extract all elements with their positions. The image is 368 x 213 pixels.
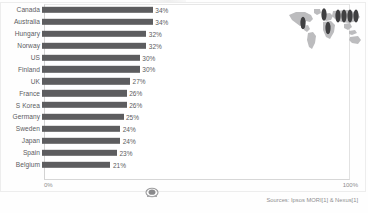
bar-track: 34% [42,16,368,28]
bar-category-label: S Korea [0,102,42,109]
bar-row: Hungary32% [0,28,368,40]
bar-value-label: 25% [124,113,140,120]
bar-track: 25% [42,111,368,123]
bar-value-label: 26% [127,102,143,109]
bar-row: Belgium21% [0,159,368,171]
bar-value-label: 34% [153,18,169,25]
bar-category-label: US [0,54,42,61]
bar-category-label: Japan [0,137,42,144]
bar-track: 23% [42,147,368,159]
x-axis: 0% 100% [0,182,368,192]
bar-track: 24% [42,123,368,135]
bar-row: Germany25% [0,111,368,123]
bar-row: Norway32% [0,40,368,52]
bar [42,78,130,84]
bar-row: Spain23% [0,147,368,159]
bar-row: Canada34% [0,4,368,16]
bar [42,161,110,167]
bar-track: 26% [42,87,368,99]
bar [42,66,140,72]
bar [42,42,146,48]
bar [42,149,117,155]
bar-value-label: 34% [153,6,169,13]
bar-row: S Korea26% [0,99,368,111]
bar-value-label: 23% [117,149,133,156]
bar-category-label: UK [0,78,42,85]
bar-row: Finland30% [0,63,368,75]
bar-row: Australia34% [0,16,368,28]
bar-value-label: 32% [146,30,162,37]
bar-track: 32% [42,28,368,40]
bar-value-label: 24% [120,137,136,144]
bar [42,19,153,25]
bar-category-label: Sweden [0,125,42,132]
bar-category-label: Australia [0,18,42,25]
bar [42,7,153,13]
bar-value-label: 32% [146,42,162,49]
bar-track: 21% [42,159,368,171]
bar-category-label: Germany [0,113,42,120]
bar-value-label: 30% [140,66,156,73]
bar-track: 30% [42,52,368,64]
bar-value-label: 30% [140,54,156,61]
axis-min-label: 0% [44,182,53,188]
chart-screenshot: Canada34%Australia34%Hungary32%Norway32%… [0,0,368,213]
stamp-icon [142,186,162,199]
bar-row: Sweden24% [0,123,368,135]
bar-value-label: 24% [120,125,136,132]
bar-row: UK27% [0,75,368,87]
bar-track: 24% [42,135,368,147]
bar-value-label: 21% [110,161,126,168]
bar-track: 30% [42,63,368,75]
bar [42,102,127,108]
axis-max-label: 100% [343,182,358,188]
bar-category-label: Belgium [0,161,42,168]
bar-track: 26% [42,99,368,111]
bar-row: US30% [0,52,368,64]
bar-category-label: Norway [0,42,42,49]
bar [42,90,127,96]
bar-category-label: France [0,90,42,97]
bar-value-label: 26% [127,90,143,97]
bar-category-label: Hungary [0,30,42,37]
bar [42,54,140,60]
bar-rows: Canada34%Australia34%Hungary32%Norway32%… [0,4,368,180]
bar [42,138,120,144]
bar-row: France26% [0,87,368,99]
bar-track: 34% [42,4,368,16]
bar-track: 27% [42,75,368,87]
bar-track: 32% [42,40,368,52]
source-note: Sources: Ipsos MORI[1] & Nexus[1] [267,196,359,204]
bar-row: Japan24% [0,135,368,147]
bar [42,126,120,132]
bar-category-label: Finland [0,66,42,73]
bar [42,114,124,120]
bar-category-label: Canada [0,6,42,13]
bar-value-label: 27% [130,78,146,85]
bar [42,31,146,37]
bar-category-label: Spain [0,149,42,156]
